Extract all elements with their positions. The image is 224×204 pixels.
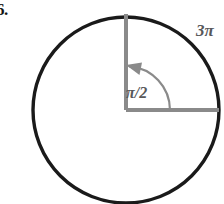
problem-number-label: 6. <box>0 0 8 20</box>
arc-length-label: 3π <box>196 21 214 41</box>
figure-canvas <box>0 0 224 204</box>
circle-angle-figure: 6. π/2 3π <box>0 0 224 204</box>
arc-arrowhead-icon <box>126 63 142 76</box>
angle-measure-label: π/2 <box>126 84 147 102</box>
